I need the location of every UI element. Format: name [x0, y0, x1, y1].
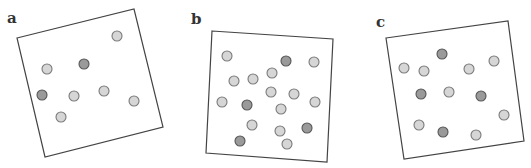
- light-dot-a-0: [112, 31, 122, 41]
- dark-dot-a-2: [79, 59, 89, 69]
- light-dot-c-4: [489, 56, 499, 66]
- light-dot-a-5: [99, 86, 109, 96]
- light-dot-b-16: [282, 139, 292, 149]
- light-dot-a-7: [56, 112, 66, 122]
- light-dot-b-9: [289, 89, 299, 99]
- dark-dot-b-15: [235, 136, 245, 146]
- figure-canvas: a b c: [0, 0, 531, 168]
- light-dot-c-6: [444, 87, 454, 97]
- light-dot-b-8: [266, 87, 276, 97]
- panel-a: a: [7, 9, 163, 157]
- light-dot-a-1: [42, 64, 52, 74]
- dark-dot-b-7: [242, 100, 252, 110]
- light-dot-c-1: [399, 63, 409, 73]
- panel-label-b: b: [191, 10, 202, 28]
- light-dot-b-11: [276, 104, 286, 114]
- dark-dot-a-3: [37, 90, 47, 100]
- dark-dot-c-5: [416, 89, 426, 99]
- light-dot-b-12: [247, 120, 257, 130]
- light-dot-b-10: [310, 97, 320, 107]
- panel-b: b: [191, 10, 333, 162]
- light-dot-c-3: [464, 64, 474, 74]
- light-dot-b-0: [222, 51, 232, 61]
- dark-dot-b-4: [281, 56, 291, 66]
- light-dot-a-6: [129, 96, 139, 106]
- light-dot-b-6: [217, 97, 227, 107]
- panel-frame-a: [17, 9, 163, 157]
- light-dot-b-1: [229, 76, 239, 86]
- dark-dot-c-7: [476, 91, 486, 101]
- light-dot-c-2: [419, 66, 429, 76]
- panel-frame-c: [386, 21, 524, 159]
- light-dot-c-11: [471, 130, 481, 140]
- dark-dot-b-14: [302, 123, 312, 133]
- light-dot-c-8: [499, 110, 509, 120]
- panel-label-a: a: [7, 9, 17, 27]
- dark-dot-c-0: [437, 49, 447, 59]
- light-dot-b-13: [275, 126, 285, 136]
- panel-c: c: [376, 13, 524, 159]
- light-dot-a-4: [69, 91, 79, 101]
- panel-label-c: c: [376, 13, 385, 31]
- dark-dot-c-10: [438, 127, 448, 137]
- light-dot-b-2: [248, 74, 258, 84]
- light-dot-c-9: [414, 120, 424, 130]
- light-dot-b-3: [267, 68, 277, 78]
- light-dot-b-5: [309, 57, 319, 67]
